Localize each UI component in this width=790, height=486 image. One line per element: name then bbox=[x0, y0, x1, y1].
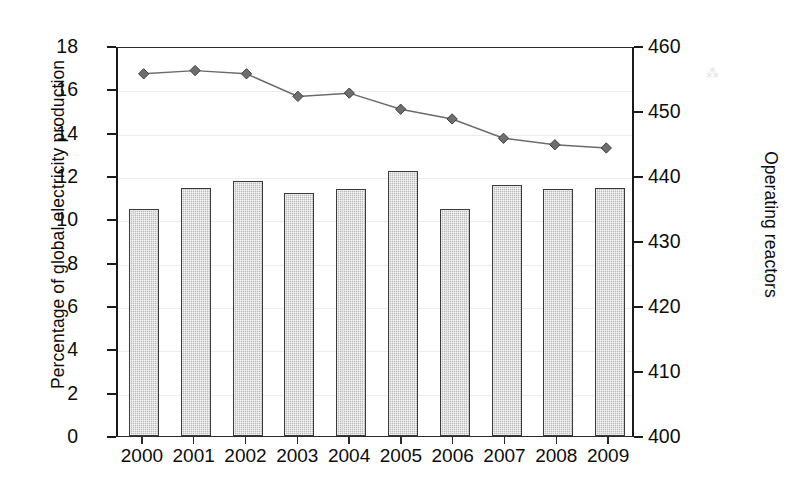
y-tick-right bbox=[634, 111, 643, 113]
x-tick bbox=[400, 437, 402, 444]
y-tick-left bbox=[107, 306, 116, 308]
plot-area bbox=[116, 47, 634, 437]
y-tick-left bbox=[107, 393, 116, 395]
y-tick-right bbox=[634, 176, 643, 178]
y-tick-label-left: 12 bbox=[18, 167, 78, 187]
line-markers bbox=[139, 65, 612, 153]
y-tick-label-right: 430 bbox=[648, 232, 708, 252]
y-tick-left bbox=[107, 436, 116, 438]
y-tick-label-right: 440 bbox=[648, 167, 708, 187]
x-tick bbox=[607, 437, 609, 444]
y-tick-left bbox=[107, 46, 116, 48]
y-tick-right bbox=[634, 46, 643, 48]
y-tick-label-left: 10 bbox=[18, 210, 78, 230]
x-tick bbox=[556, 437, 558, 444]
chart-figure: Percentage of global electricity product… bbox=[0, 0, 790, 486]
line-marker bbox=[293, 91, 303, 101]
y-tick-label-left: 14 bbox=[18, 124, 78, 144]
x-tick bbox=[452, 437, 454, 444]
line-marker bbox=[601, 143, 611, 153]
y-tick-label-right: 420 bbox=[648, 297, 708, 317]
y-tick-label-left: 0 bbox=[18, 427, 78, 447]
y-tick-left bbox=[107, 176, 116, 178]
line-marker bbox=[498, 133, 508, 143]
x-tick bbox=[504, 437, 506, 444]
y-tick-left bbox=[107, 263, 116, 265]
x-tick bbox=[245, 437, 247, 444]
y-tick-left bbox=[107, 349, 116, 351]
y-tick-right bbox=[634, 306, 643, 308]
line-series bbox=[118, 48, 632, 435]
y-tick-label-right: 450 bbox=[648, 102, 708, 122]
y-tick-label-right: 410 bbox=[648, 362, 708, 382]
line-path bbox=[144, 71, 607, 148]
x-tick bbox=[193, 437, 195, 444]
y-tick-label-left: 18 bbox=[18, 37, 78, 57]
x-tick-label: 2009 bbox=[573, 446, 643, 465]
y-tick-left bbox=[107, 133, 116, 135]
scan-artifact: ⁂ bbox=[706, 66, 720, 79]
y-tick-label-left: 8 bbox=[18, 254, 78, 274]
y-tick-label-left: 6 bbox=[18, 297, 78, 317]
line-marker bbox=[139, 69, 149, 79]
y-tick-label-left: 16 bbox=[18, 80, 78, 100]
line-marker bbox=[190, 65, 200, 75]
y-tick-label-right: 460 bbox=[648, 37, 708, 57]
y-tick-label-left: 4 bbox=[18, 340, 78, 360]
y-tick-left bbox=[107, 219, 116, 221]
line-marker bbox=[344, 88, 354, 98]
y-tick-right bbox=[634, 241, 643, 243]
x-tick bbox=[297, 437, 299, 444]
y-tick-label-right: 400 bbox=[648, 427, 708, 447]
x-tick bbox=[348, 437, 350, 444]
x-tick bbox=[141, 437, 143, 444]
line-marker bbox=[447, 114, 457, 124]
y-axis-right-title: Operating reactors bbox=[760, 55, 781, 395]
y-tick-right bbox=[634, 371, 643, 373]
y-tick-left bbox=[107, 89, 116, 91]
y-tick-label-left: 2 bbox=[18, 384, 78, 404]
y-tick-right bbox=[634, 436, 643, 438]
line-marker bbox=[396, 104, 406, 114]
line-marker bbox=[241, 69, 251, 79]
line-marker bbox=[550, 140, 560, 150]
